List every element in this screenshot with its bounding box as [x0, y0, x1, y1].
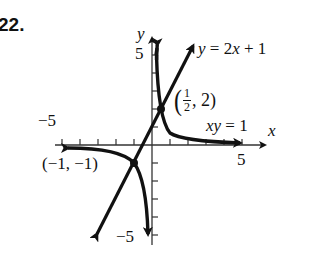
point-neg1-neg1 [130, 159, 138, 167]
y-axis-label: y [137, 25, 145, 42]
point-label-neg1-neg1: (−1, −1) [42, 155, 98, 172]
x-axis-label: x [268, 122, 276, 139]
x-tick-label-5: 5 [237, 151, 246, 168]
point-half-2 [157, 105, 165, 113]
point-label-half-2: ( 1 2 , 2) [174, 87, 216, 113]
y-tick-label-5: 5 [135, 45, 144, 62]
hyperbola-equation-label: xy = 1 [206, 117, 248, 134]
x-tick-label-neg5: −5 [38, 112, 56, 129]
y-tick-label-neg5: −5 [116, 228, 134, 245]
line-equation-label: y = 2x + 1 [198, 40, 266, 57]
